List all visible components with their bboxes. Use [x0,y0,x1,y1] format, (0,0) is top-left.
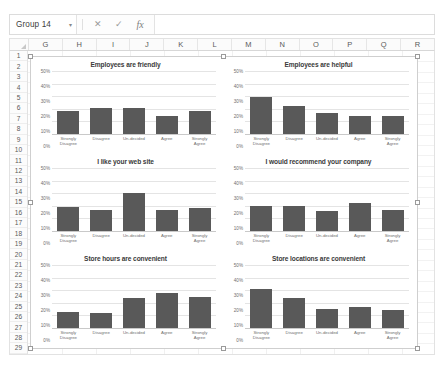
row-header-19[interactable]: 19 [10,239,27,249]
x-axis: Strongly DisagreeDisagreeUn-decidedAgree… [245,135,409,151]
bar-1[interactable] [57,111,79,134]
row-header-21[interactable]: 21 [10,260,27,270]
row-header-26[interactable]: 26 [10,312,27,322]
y-axis-tick: 0% [236,242,243,247]
resize-handle-bottom-center[interactable] [221,346,226,351]
formula-input[interactable] [155,15,434,34]
chart-2[interactable]: Employees are helpful50%40%30%20%10%0%St… [224,57,417,154]
resize-handle-middle-right[interactable] [415,200,420,205]
cancel-icon[interactable]: ✕ [93,20,103,29]
row-header-12[interactable]: 12 [10,166,27,176]
row-header-10[interactable]: 10 [10,145,27,155]
bar-5[interactable] [382,116,404,134]
row-header-9[interactable]: 9 [10,135,27,145]
column-header-m[interactable]: M [232,39,266,50]
chart-title: Store locations are convenient [228,255,409,262]
chart-1[interactable]: Employees are friendly50%40%30%20%10%0%S… [31,57,224,154]
bar-4[interactable] [349,116,371,134]
bar-4[interactable] [156,116,178,134]
bar-3[interactable] [316,309,338,328]
row-header-27[interactable]: 27 [10,322,27,332]
row-header-25[interactable]: 25 [10,302,27,312]
bar-1[interactable] [57,312,79,328]
bar-4[interactable] [349,307,371,328]
resize-handle-top-right[interactable] [415,54,420,59]
row-header-23[interactable]: 23 [10,281,27,291]
row-header-15[interactable]: 15 [10,197,27,207]
check-icon[interactable]: ✓ [114,20,124,29]
row-header-20[interactable]: 20 [10,249,27,259]
row-header-14[interactable]: 14 [10,187,27,197]
row-header-8[interactable]: 8 [10,124,27,134]
bar-2[interactable] [90,210,112,231]
row-header-22[interactable]: 22 [10,270,27,280]
row-header-1[interactable]: 1 [10,51,27,61]
resize-handle-top-left[interactable] [28,54,33,59]
row-header-16[interactable]: 16 [10,208,27,218]
bar-2[interactable] [90,108,112,134]
x-axis-tick: Strongly Disagree [246,233,277,248]
resize-handle-top-center[interactable] [221,54,226,59]
bar-4[interactable] [156,293,178,328]
row-header-4[interactable]: 4 [10,82,27,92]
row-header-11[interactable]: 11 [10,155,27,165]
column-header-q[interactable]: Q [367,39,401,50]
bar-4[interactable] [349,203,371,231]
bar-5[interactable] [382,210,404,231]
column-header-o[interactable]: O [300,39,334,50]
name-box[interactable]: Group 14 ▾ [10,15,77,34]
row-header-5[interactable]: 5 [10,93,27,103]
bar-1[interactable] [250,289,272,328]
resize-handle-bottom-left[interactable] [28,346,33,351]
column-header-r[interactable]: R [401,39,434,50]
bar-5[interactable] [189,297,211,329]
bar-1[interactable] [57,207,79,231]
bar-2[interactable] [283,106,305,134]
chart-title: Employees are friendly [35,61,216,68]
row-header-29[interactable]: 29 [10,343,27,353]
bar-2[interactable] [283,298,305,328]
bar-3[interactable] [316,113,338,134]
y-axis-tick: 30% [234,197,243,202]
row-header-24[interactable]: 24 [10,291,27,301]
column-header-row: GHIJKLMNOPQR [9,38,435,51]
column-header-k[interactable]: K [164,39,198,50]
chevron-down-icon[interactable]: ▾ [69,22,72,28]
bar-3[interactable] [123,298,145,328]
bar-3[interactable] [123,193,145,231]
chart-6[interactable]: Store locations are convenient50%40%30%2… [224,251,417,348]
chart-4[interactable]: I would recommend your company50%40%30%2… [224,154,417,251]
column-header-g[interactable]: G [29,39,63,50]
bar-5[interactable] [382,310,404,328]
chart-group-object[interactable]: Employees are friendly50%40%30%20%10%0%S… [30,56,418,349]
row-header-17[interactable]: 17 [10,218,27,228]
bar-3[interactable] [123,108,145,134]
row-header-28[interactable]: 28 [10,333,27,343]
column-header-p[interactable]: P [333,39,367,50]
chart-3[interactable]: I like your web site50%40%30%20%10%0%Str… [31,154,224,251]
column-header-i[interactable]: I [97,39,131,50]
column-header-j[interactable]: J [130,39,164,50]
column-header-l[interactable]: L [198,39,232,50]
row-header-2[interactable]: 2 [10,61,27,71]
bar-1[interactable] [250,206,272,231]
bar-2[interactable] [283,206,305,231]
row-header-13[interactable]: 13 [10,176,27,186]
column-header-n[interactable]: N [266,39,300,50]
bar-3[interactable] [316,211,338,231]
resize-handle-bottom-right[interactable] [415,346,420,351]
bar-5[interactable] [189,111,211,134]
select-all-corner[interactable] [10,39,29,50]
column-header-h[interactable]: H [63,39,97,50]
bar-1[interactable] [250,97,272,134]
resize-handle-middle-left[interactable] [28,200,33,205]
row-header-7[interactable]: 7 [10,114,27,124]
row-header-3[interactable]: 3 [10,72,27,82]
row-header-18[interactable]: 18 [10,228,27,238]
bar-5[interactable] [189,208,211,231]
bar-4[interactable] [156,210,178,231]
bar-2[interactable] [90,313,112,328]
chart-5[interactable]: Store hours are convenient50%40%30%20%10… [31,251,224,348]
row-header-6[interactable]: 6 [10,103,27,113]
insert-function-icon[interactable]: fx [135,20,145,30]
